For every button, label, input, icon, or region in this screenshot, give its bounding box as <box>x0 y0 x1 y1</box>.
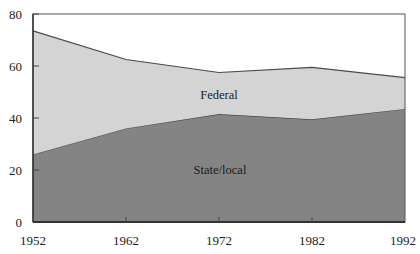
y-tick-label: 0 <box>16 215 23 230</box>
x-tick-label: 1992 <box>390 233 416 248</box>
stacked-area-chart: 02040608019521962197219821992 Federal St… <box>0 0 420 254</box>
x-tick-label: 1962 <box>113 233 139 248</box>
y-tick-label: 80 <box>9 7 22 22</box>
y-tick-label: 40 <box>9 111 22 126</box>
x-tick-label: 1972 <box>206 233 232 248</box>
x-tick-label: 1982 <box>299 233 325 248</box>
x-tick-label: 1952 <box>20 233 46 248</box>
plot-area <box>33 31 405 222</box>
federal-area-label: Federal <box>200 88 238 102</box>
state-local-area-label: State/local <box>194 163 247 177</box>
y-tick-label: 20 <box>9 163 22 178</box>
y-tick-label: 60 <box>9 59 22 74</box>
